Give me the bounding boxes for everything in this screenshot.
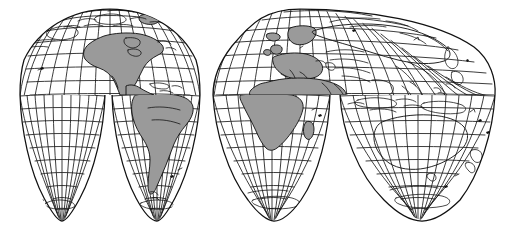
world-map-figure: [0, 0, 511, 237]
map-canvas: [0, 0, 511, 237]
madagascar: [303, 121, 314, 139]
